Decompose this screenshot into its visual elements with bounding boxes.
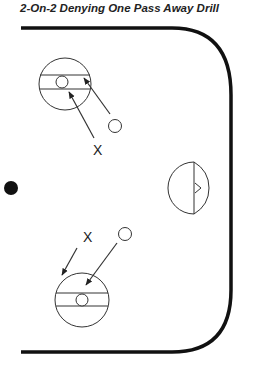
pass-arrow-bottom <box>86 243 117 285</box>
puck-dot <box>4 181 18 195</box>
offensive-player-top <box>109 120 122 133</box>
offensive-player-bottom <box>119 228 132 241</box>
defender-arrow-top <box>69 92 94 138</box>
defender-label-top: X <box>93 142 103 158</box>
net <box>168 162 209 214</box>
defender-arrow-bottom <box>62 248 77 275</box>
defender-label-bottom: X <box>83 229 93 245</box>
drill-diagram: X X <box>0 0 261 366</box>
faceoff-circle-bottom <box>55 273 109 327</box>
faceoff-circle-top <box>39 58 91 110</box>
